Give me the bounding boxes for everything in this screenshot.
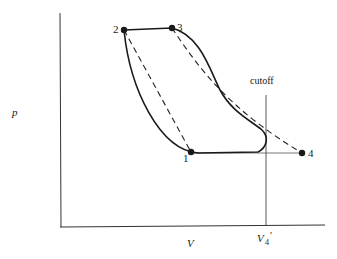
point-3-label: 3 (177, 21, 183, 33)
actual-cycle (124, 28, 266, 153)
x-axis-label: V (187, 237, 195, 249)
point-2-marker (121, 27, 127, 33)
v4-prime-subscript: 4 (265, 238, 269, 247)
v4-prime-label: V 4 ′ (257, 230, 272, 247)
point-4-label: 4 (308, 147, 314, 159)
y-axis (60, 13, 61, 227)
v4-prime-mark: ′ (270, 230, 272, 241)
point-3-marker (169, 25, 175, 31)
pv-diagram: 1 2 3 4 cutoff p V V 4 ′ (0, 0, 337, 259)
cutoff-label: cutoff (250, 75, 274, 86)
point-1-label: 1 (183, 152, 189, 164)
x-axis (60, 225, 325, 227)
point-2-label: 2 (113, 23, 119, 35)
point-4-marker (299, 150, 305, 156)
point-1-marker (188, 149, 194, 155)
y-axis-label: p (11, 106, 18, 118)
v4-prime-main: V (257, 232, 265, 244)
ideal-cycle-dashed (124, 28, 302, 153)
